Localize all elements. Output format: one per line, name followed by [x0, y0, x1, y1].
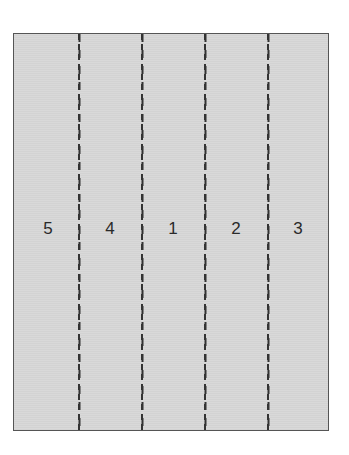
panel-label-1: 1	[153, 219, 193, 239]
panel-label-5: 5	[28, 219, 68, 239]
fold-line-2	[141, 34, 143, 430]
panel-label-2: 2	[216, 219, 256, 239]
folded-sheet-panel: 5 4 1 2 3	[13, 33, 329, 431]
fold-line-3	[204, 34, 206, 430]
panel-label-4: 4	[90, 219, 130, 239]
fold-line-4	[267, 34, 269, 430]
panel-label-3: 3	[278, 219, 318, 239]
fold-line-1	[78, 34, 80, 430]
